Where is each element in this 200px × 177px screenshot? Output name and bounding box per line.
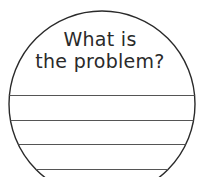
prompt-line-1: What is [0, 28, 200, 50]
worksheet-graphic [0, 0, 200, 177]
prompt-line-2: the problem? [0, 50, 200, 72]
